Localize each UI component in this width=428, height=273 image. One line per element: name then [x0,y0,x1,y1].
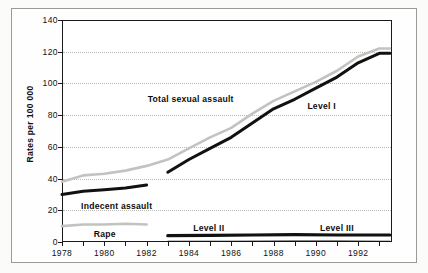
x-axis-tick-mark [316,242,317,246]
x-axis-tick-label: 1990 [296,248,336,258]
x-axis-tick-label: 1986 [211,248,251,258]
series-line [62,185,147,195]
y-axis-tick-label: 20 [28,205,58,215]
y-axis-tick-label: 40 [28,174,58,184]
x-axis-tick-mark [252,242,253,246]
x-axis-tick-label: 1978 [42,248,82,258]
series-line [168,235,390,236]
x-axis-tick-mark [147,242,148,246]
chart-figure: Rates per 100 000 020406080100120140 Tot… [0,0,428,273]
x-axis-tick-labels: 19781980198219841986198819901992 [62,248,392,262]
series-label: Total sexual assault [148,94,234,104]
x-axis-tick-mark [274,242,275,246]
series-label: Rape [94,229,116,239]
series-line [62,49,390,182]
x-axis-tick-mark [104,242,105,246]
y-axis-tick-label: 140 [28,15,58,25]
x-axis-tick-mark [168,242,169,246]
x-axis-tick-mark [295,242,296,246]
y-axis-tick-label: 100 [28,78,58,88]
y-axis-tick-labels: 020406080100120140 [26,20,58,242]
plot-area: Total sexual assaultLevel IIndecent assa… [62,20,392,242]
x-axis-tick-mark [337,242,338,246]
x-axis-tick-mark [125,242,126,246]
x-axis-tick-mark [210,242,211,246]
y-axis-tick-label: 60 [28,142,58,152]
x-axis-tick-mark [231,242,232,246]
x-axis-tick-mark [358,242,359,246]
x-axis-tick-label: 1980 [84,248,124,258]
x-axis-tick-label: 1984 [169,248,209,258]
series-label: Level II [193,223,224,233]
series-label: Indecent assault [81,201,152,211]
x-axis-tick-label: 1992 [338,248,378,258]
y-axis-tick-label: 80 [28,110,58,120]
series-label: Level I [307,101,336,111]
x-axis-tick-label: 1988 [254,248,294,258]
x-axis-tick-mark [83,242,84,246]
x-axis-tick-label: 1982 [127,248,167,258]
series-line [62,224,147,226]
x-axis-tick-marks [62,242,392,247]
x-axis-tick-mark [189,242,190,246]
y-axis-tick-label: 120 [28,47,58,57]
series-label: Level III [320,223,354,233]
x-axis-tick-mark [62,242,63,246]
x-axis-tick-mark [379,242,380,246]
series-line [168,53,390,172]
y-axis-tick-label: 0 [28,237,58,247]
